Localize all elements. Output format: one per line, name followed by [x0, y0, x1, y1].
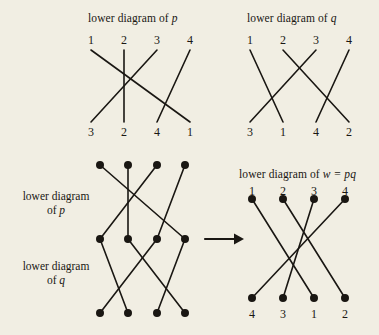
- stacked-dot-top-1: [97, 162, 103, 168]
- p-strand-1: [91, 50, 190, 122]
- w-diagram-strands: [252, 199, 345, 298]
- stacked-lower-strand-3: [100, 239, 157, 313]
- stacked-lower-strand-2: [128, 239, 185, 313]
- right-arrow-icon: [205, 234, 244, 245]
- stacked-dot-bottom-3: [154, 310, 160, 316]
- w-dot-bottom-3: [311, 295, 317, 301]
- w-dot-bottom-1: [249, 295, 255, 301]
- stacked-dot-mid-4: [182, 236, 188, 242]
- stacked-dot-top-2: [125, 162, 131, 168]
- stacked-upper-strand-1: [100, 165, 185, 239]
- stacked-diagram-lower-strands: [100, 239, 185, 313]
- permutation-diagram-figure: lower diagram of p 1 2 3 4 3 2 4 1 lower…: [0, 0, 379, 335]
- w-strand-4: [252, 199, 345, 298]
- stacked-upper-strand-4: [157, 165, 185, 239]
- p-strand-4: [157, 50, 190, 122]
- stacked-dot-bottom-2: [125, 310, 131, 316]
- w-dot-bottom-2: [280, 295, 286, 301]
- stacked-dot-mid-2: [125, 236, 131, 242]
- p-diagram-strands: [91, 50, 190, 122]
- stacked-diagram-upper-strands: [100, 165, 185, 239]
- q-strand-2: [283, 50, 349, 122]
- stacked-lower-strand-1: [100, 239, 128, 313]
- w-dot-bottom-4: [342, 295, 348, 301]
- stacked-dot-bottom-1: [97, 310, 103, 316]
- w-dot-top-1: [249, 196, 255, 202]
- w-dot-top-3: [311, 196, 317, 202]
- w-strand-1: [252, 199, 314, 298]
- w-strand-2: [283, 199, 345, 298]
- stacked-dot-bottom-4: [182, 310, 188, 316]
- stacked-dot-mid-3: [154, 236, 160, 242]
- stacked-dot-mid-1: [97, 236, 103, 242]
- q-strand-3: [250, 50, 316, 122]
- q-strand-1: [250, 50, 283, 122]
- stacked-lower-strand-4: [157, 239, 185, 313]
- q-strand-4: [316, 50, 349, 122]
- stacked-dot-top-4: [182, 162, 188, 168]
- w-dot-top-4: [342, 196, 348, 202]
- w-dot-top-2: [280, 196, 286, 202]
- q-diagram-strands: [250, 50, 349, 122]
- diagram-strands-svg: [0, 0, 379, 335]
- stacked-dot-top-3: [154, 162, 160, 168]
